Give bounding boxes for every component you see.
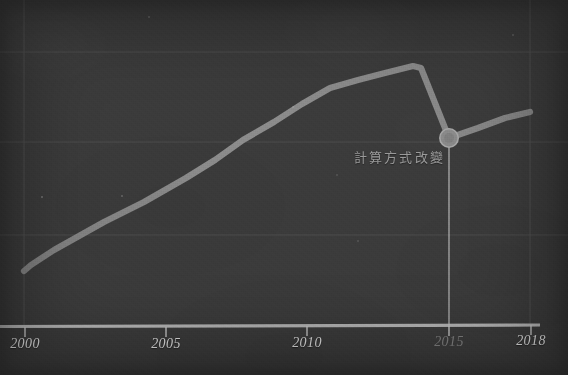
horizontal-gridlines (0, 52, 568, 235)
data-series-line (24, 66, 530, 271)
x-tick-label-2010: 2010 (292, 335, 322, 351)
annotation-label: 計算方式改變 (354, 147, 445, 166)
data-point-marker[interactable] (440, 129, 458, 147)
x-tick-label-2000: 2000 (10, 336, 40, 352)
x-tick-label-2005: 2005 (151, 336, 181, 352)
vertical-gridlines (24, 0, 530, 325)
plot-area: 2000 2005 2010 2015 2018 計算方式改變 (0, 0, 568, 375)
chart-figure: 2000 2005 2010 2015 2018 計算方式改變 (0, 0, 568, 375)
x-tick-label-2018: 2018 (516, 333, 546, 349)
x-tick-label-2015: 2015 (434, 334, 464, 350)
chart-canvas (0, 0, 568, 375)
x-axis-line (0, 325, 540, 327)
